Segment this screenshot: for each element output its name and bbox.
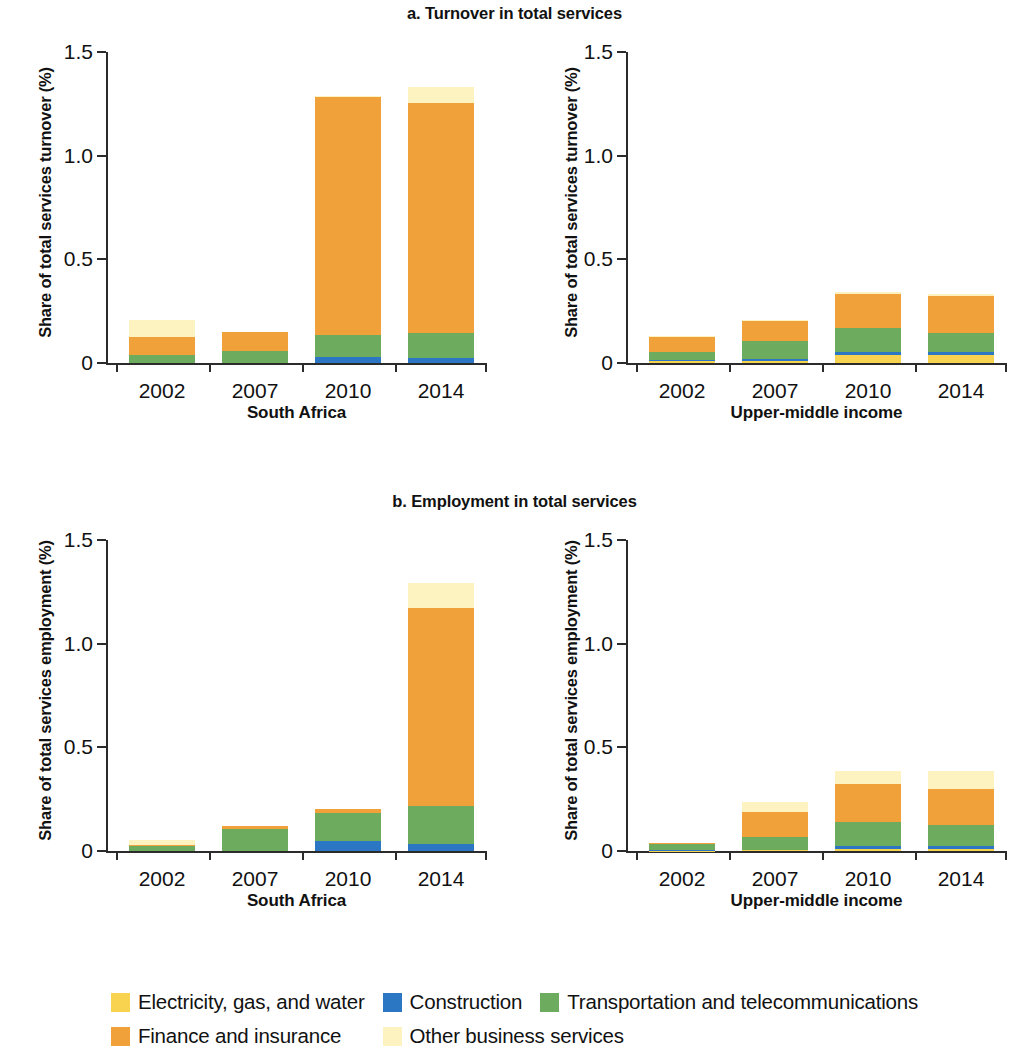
bar-segment[interactable] (928, 771, 994, 789)
legend-swatch-construction (383, 993, 402, 1012)
bar-segment[interactable] (408, 87, 474, 103)
x-axis-tick (116, 363, 118, 372)
legend-label-transportation: Transportation and telecommunications (567, 990, 918, 1014)
bar-segment[interactable] (835, 849, 901, 851)
stacked-bar[interactable] (129, 840, 195, 851)
bar-segment[interactable] (742, 341, 808, 359)
bar-segment[interactable] (649, 337, 715, 352)
x-axis-tick (729, 363, 731, 372)
bar-segment[interactable] (129, 320, 195, 338)
stacked-bar[interactable] (742, 320, 808, 364)
bar-segment[interactable] (408, 333, 474, 358)
bar-segment[interactable] (315, 357, 381, 363)
x-axis-tick (302, 851, 304, 860)
y-axis-label: Share of total services employment (%) (562, 517, 581, 865)
plot-area: 00.51.01.52002200720102014 (106, 540, 487, 853)
bar-segment[interactable] (408, 358, 474, 363)
y-axis-tick-label: 0 (601, 351, 613, 375)
x-axis-tick (395, 851, 397, 860)
y-axis-tick (617, 51, 626, 53)
bar-segment[interactable] (742, 802, 808, 812)
stacked-bar[interactable] (928, 294, 994, 363)
x-axis-line (626, 363, 1007, 365)
x-axis-tick-label: 2010 (325, 867, 372, 891)
legend: Electricity, gas, and waterConstructionT… (0, 988, 1029, 1056)
stacked-bar[interactable] (649, 336, 715, 363)
bar-segment[interactable] (742, 361, 808, 363)
bar-segment[interactable] (928, 355, 994, 363)
x-axis-tick (1005, 851, 1007, 860)
bar-segment[interactable] (928, 789, 994, 825)
stacked-bar[interactable] (742, 802, 808, 851)
stacked-bar[interactable] (928, 771, 994, 851)
bar-segment[interactable] (835, 771, 901, 783)
bar-segment[interactable] (408, 583, 474, 609)
bar-segment[interactable] (315, 841, 381, 851)
legend-label-electricity: Electricity, gas, and water (138, 990, 365, 1014)
y-axis-tick (97, 746, 106, 748)
bar-segment[interactable] (835, 328, 901, 352)
legend-item-other_business[interactable]: Other business services (383, 1024, 624, 1048)
bar-segment[interactable] (408, 608, 474, 806)
stacked-bar[interactable] (129, 320, 195, 364)
legend-item-construction[interactable]: Construction (383, 990, 523, 1014)
y-axis-label: Share of total services turnover (%) (36, 29, 55, 377)
bar-segment[interactable] (835, 822, 901, 846)
bar-segment[interactable] (222, 829, 288, 851)
bar-segment[interactable] (835, 355, 901, 363)
x-axis-tick-label: 2002 (659, 379, 706, 403)
bar-segment[interactable] (742, 321, 808, 342)
panel-b-title: b. Employment in total services (0, 492, 1029, 511)
x-axis-line (106, 851, 487, 853)
bar-segment[interactable] (315, 813, 381, 841)
x-axis-tick-label: 2014 (938, 379, 985, 403)
bar-segment[interactable] (129, 355, 195, 363)
stacked-bar[interactable] (835, 292, 901, 363)
bar-segment[interactable] (222, 351, 288, 363)
bar-segment[interactable] (649, 361, 715, 363)
bar-segment[interactable] (649, 352, 715, 361)
stacked-bar[interactable] (315, 96, 381, 363)
x-axis-tick-label: 2007 (232, 867, 279, 891)
stacked-bar[interactable] (315, 809, 381, 851)
legend-item-finance[interactable]: Finance and insurance (111, 1024, 341, 1048)
legend-swatch-other_business (383, 1027, 402, 1046)
y-axis-label: Share of total services employment (%) (36, 517, 55, 865)
y-axis-tick (97, 155, 106, 157)
x-axis-tick (636, 851, 638, 860)
bar-segment[interactable] (835, 294, 901, 328)
x-axis-tick (822, 363, 824, 372)
bar-segment[interactable] (928, 296, 994, 332)
bar-segment[interactable] (742, 850, 808, 851)
stacked-bar[interactable] (408, 583, 474, 851)
bar-segment[interactable] (315, 97, 381, 335)
bar-segment[interactable] (222, 332, 288, 351)
legend-item-electricity[interactable]: Electricity, gas, and water (111, 990, 365, 1014)
bar-segment[interactable] (835, 784, 901, 822)
y-axis-tick (617, 643, 626, 645)
x-axis-tick-label: 2014 (938, 867, 985, 891)
stacked-bar[interactable] (835, 771, 901, 851)
plot-area: 00.51.01.52002200720102014 (626, 52, 1007, 365)
stacked-bar[interactable] (408, 87, 474, 363)
y-axis-tick-label: 1.5 (584, 40, 613, 64)
bar-segment[interactable] (928, 849, 994, 851)
bar-segment[interactable] (129, 337, 195, 355)
legend-item-transportation[interactable]: Transportation and telecommunications (540, 990, 918, 1014)
x-axis-tick (302, 363, 304, 372)
chart-employment-south-africa: Share of total services employment (%)00… (2, 518, 502, 938)
bar-segment[interactable] (408, 103, 474, 333)
stacked-bar[interactable] (222, 826, 288, 851)
bar-segment[interactable] (928, 333, 994, 353)
bar-segment[interactable] (928, 825, 994, 846)
y-axis-tick-label: 1.5 (584, 528, 613, 552)
stacked-bar[interactable] (222, 332, 288, 363)
bar-segment[interactable] (742, 812, 808, 836)
bar-segment[interactable] (129, 846, 195, 851)
bar-segment[interactable] (742, 837, 808, 850)
y-axis-tick-label: 0.5 (584, 735, 613, 759)
bar-segment[interactable] (408, 844, 474, 851)
bar-segment[interactable] (408, 806, 474, 843)
stacked-bar[interactable] (649, 843, 715, 851)
bar-segment[interactable] (315, 335, 381, 357)
